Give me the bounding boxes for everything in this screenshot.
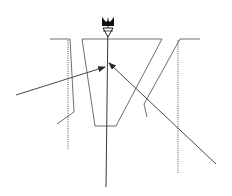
right-bank (144, 39, 200, 174)
left-bank (50, 39, 74, 150)
diagram-canvas (0, 0, 232, 196)
channel-trapezoid (82, 39, 162, 126)
right-bank-wall (144, 39, 180, 117)
inverted-triangle-icon (103, 28, 113, 37)
right-force-arrow (109, 63, 216, 164)
left-force-arrow (16, 67, 105, 95)
center-axis-line (106, 18, 108, 187)
